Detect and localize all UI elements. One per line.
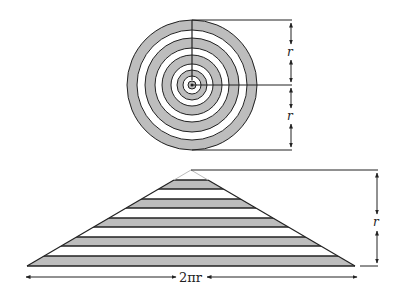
strip-1 xyxy=(0,180,400,189)
strip-4 xyxy=(0,237,400,246)
strip-3 xyxy=(0,218,400,227)
circle-dimensions xyxy=(192,20,292,150)
strip-2 xyxy=(0,199,400,208)
triangle-base-label: 2πr xyxy=(179,270,203,285)
circle-to-triangle-diagram: r r xyxy=(0,0,400,297)
triangle-height-label: r xyxy=(373,215,380,229)
unrolled-triangle xyxy=(0,170,400,266)
circle-upper-radius-label: r xyxy=(287,45,294,59)
circle-lower-radius-label: r xyxy=(287,109,294,123)
